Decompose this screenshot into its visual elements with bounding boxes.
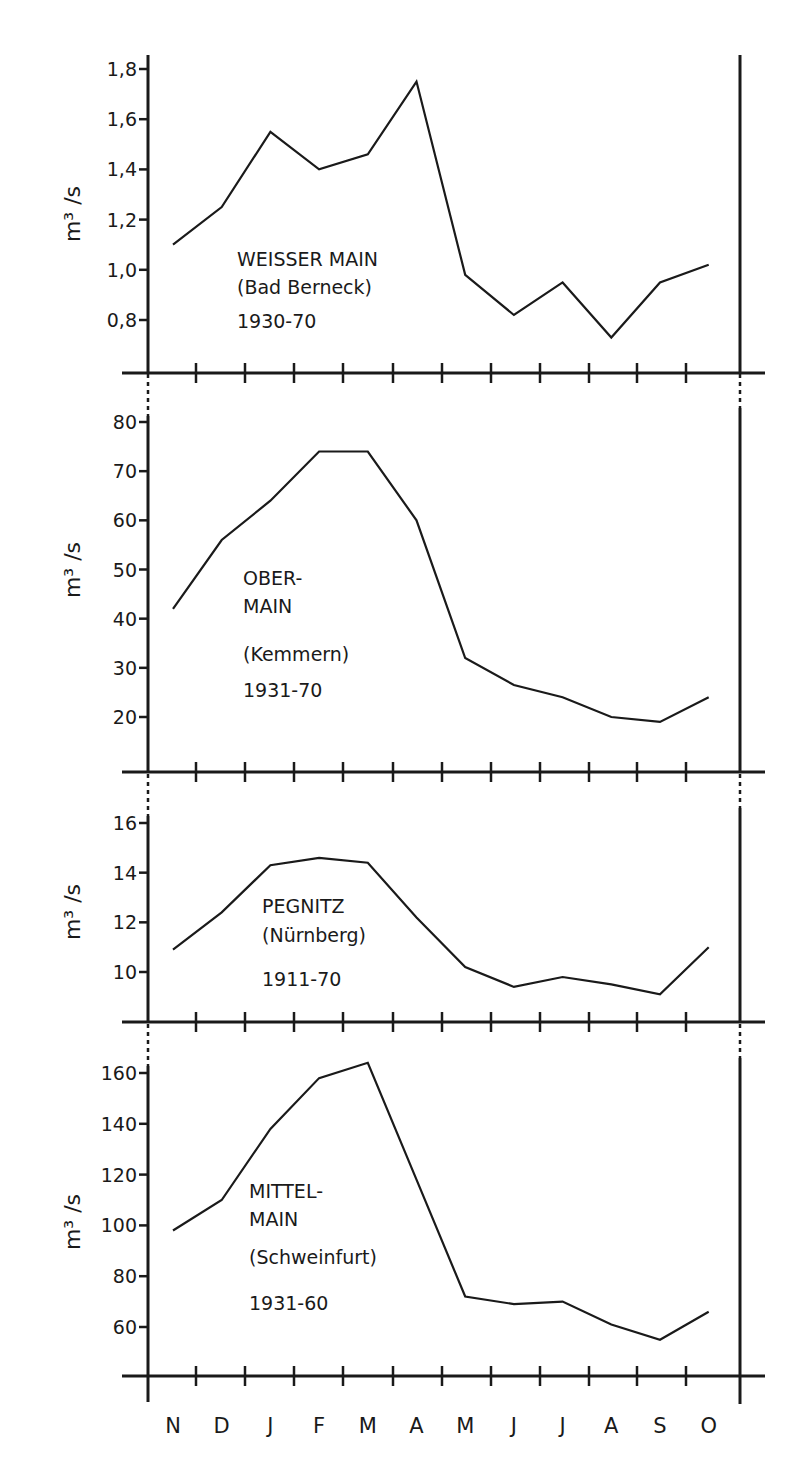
discharge-line bbox=[173, 858, 709, 995]
y-tick-label: 70 bbox=[113, 460, 137, 482]
y-tick-label: 50 bbox=[113, 559, 137, 581]
y-tick-label: 1,0 bbox=[107, 259, 137, 281]
month-label: D bbox=[214, 1414, 230, 1438]
y-tick-label: 100 bbox=[101, 1214, 137, 1236]
y-tick-label: 160 bbox=[101, 1062, 137, 1084]
station-label: MITTEL- bbox=[249, 1180, 323, 1202]
station-label: 1930-70 bbox=[237, 310, 316, 332]
y-tick-label: 120 bbox=[101, 1164, 137, 1186]
discharge-line bbox=[173, 82, 709, 338]
panel-3: 10121416m³ /sPEGNITZ(Nürnberg)1911-70 bbox=[60, 774, 765, 1032]
hydrograph-figure: 0,81,01,21,41,61,8m³ /sWEISSER MAIN(Bad … bbox=[0, 0, 806, 1479]
station-label: (Nürnberg) bbox=[262, 924, 366, 946]
station-label: (Schweinfurt) bbox=[249, 1246, 377, 1268]
month-label: A bbox=[604, 1414, 619, 1438]
station-label: MAIN bbox=[243, 595, 292, 617]
y-axis-label: m³ /s bbox=[60, 1194, 85, 1250]
month-label: M bbox=[359, 1414, 377, 1438]
y-tick-label: 14 bbox=[113, 862, 137, 884]
month-axis: NDJFMAMJJASO bbox=[148, 1376, 740, 1438]
month-label: O bbox=[700, 1414, 717, 1438]
y-tick-label: 20 bbox=[113, 706, 137, 728]
month-label: S bbox=[653, 1414, 666, 1438]
y-tick-label: 140 bbox=[101, 1113, 137, 1135]
month-label: J bbox=[557, 1414, 565, 1438]
panel-2: 20304050607080m³ /sOBER-MAIN(Kemmern)193… bbox=[60, 374, 765, 782]
panel-4: 6080100120140160m³ /sMITTEL-MAIN(Schwein… bbox=[60, 1024, 765, 1386]
y-tick-label: 0,8 bbox=[107, 309, 137, 331]
y-tick-label: 80 bbox=[113, 1265, 137, 1287]
month-label: A bbox=[409, 1414, 424, 1438]
y-tick-label: 1,2 bbox=[107, 209, 137, 231]
y-axis-label: m³ /s bbox=[60, 542, 85, 598]
y-tick-label: 1,6 bbox=[107, 108, 137, 130]
station-label: 1931-70 bbox=[243, 679, 322, 701]
y-tick-label: 80 bbox=[113, 411, 137, 433]
station-label: WEISSER MAIN bbox=[237, 248, 378, 270]
month-label: N bbox=[165, 1414, 181, 1438]
y-axis-label: m³ /s bbox=[60, 884, 85, 940]
station-label: (Kemmern) bbox=[243, 643, 349, 665]
station-label: 1931-60 bbox=[249, 1292, 328, 1314]
station-label: 1911-70 bbox=[262, 968, 341, 990]
station-label: PEGNITZ bbox=[262, 895, 345, 917]
y-tick-label: 1,8 bbox=[107, 58, 137, 80]
y-tick-label: 12 bbox=[113, 911, 137, 933]
y-tick-label: 40 bbox=[113, 608, 137, 630]
y-tick-label: 16 bbox=[113, 812, 137, 834]
month-label: M bbox=[456, 1414, 474, 1438]
month-label: F bbox=[313, 1414, 325, 1438]
station-label: MAIN bbox=[249, 1208, 298, 1230]
month-label: J bbox=[509, 1414, 517, 1438]
y-tick-label: 10 bbox=[113, 961, 137, 983]
month-label: J bbox=[265, 1414, 273, 1438]
y-tick-label: 30 bbox=[113, 657, 137, 679]
panel-1: 0,81,01,21,41,61,8m³ /sWEISSER MAIN(Bad … bbox=[60, 55, 765, 383]
y-tick-label: 1,4 bbox=[107, 158, 137, 180]
station-label: (Bad Berneck) bbox=[237, 276, 372, 298]
y-tick-label: 60 bbox=[113, 509, 137, 531]
y-axis-label: m³ /s bbox=[60, 186, 85, 242]
station-label: OBER- bbox=[243, 567, 302, 589]
y-tick-label: 60 bbox=[113, 1316, 137, 1338]
